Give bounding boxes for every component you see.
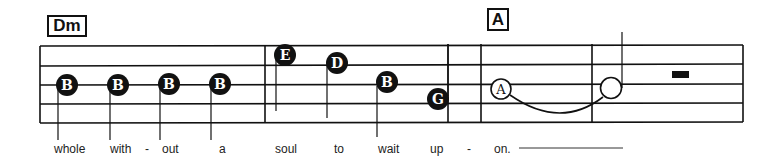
- lyric-hyphen-2: -: [467, 142, 471, 156]
- note-b-2: B: [107, 74, 129, 96]
- svg-text:A: A: [495, 82, 506, 97]
- lyric-a: a: [219, 142, 226, 156]
- note-d: D: [326, 52, 348, 74]
- lyric-up: up: [430, 142, 443, 156]
- svg-text:B: B: [381, 74, 393, 90]
- svg-text:B: B: [61, 77, 73, 93]
- note-g: G: [427, 88, 449, 110]
- note-b-5: B: [376, 71, 398, 93]
- lyric-whole: whole: [54, 142, 85, 156]
- note-b-1: B: [56, 74, 78, 96]
- svg-text:E: E: [280, 47, 291, 63]
- lyric-hyphen-1: -: [145, 142, 149, 156]
- svg-text:G: G: [432, 91, 444, 107]
- lyric-out: out: [162, 142, 179, 156]
- note-e: E: [274, 44, 296, 66]
- note-stems: [58, 32, 622, 140]
- note-b-3: B: [158, 73, 180, 95]
- lyric-to: to: [334, 142, 344, 156]
- staff-svg: B B B B E D B G: [0, 0, 781, 162]
- lyric-wait: wait: [378, 142, 399, 156]
- lyric-soul: soul: [275, 142, 297, 156]
- note-tied-open: [601, 78, 622, 99]
- half-rest: [672, 71, 689, 78]
- lyric-on: on.: [494, 142, 511, 156]
- svg-text:D: D: [331, 55, 343, 71]
- note-b-4: B: [209, 73, 231, 95]
- svg-text:B: B: [163, 76, 175, 92]
- note-a-open: A: [491, 79, 511, 99]
- lyric-with: with: [110, 142, 131, 156]
- svg-text:B: B: [112, 77, 124, 93]
- svg-text:B: B: [214, 76, 226, 92]
- music-score: Dm A: [0, 0, 781, 162]
